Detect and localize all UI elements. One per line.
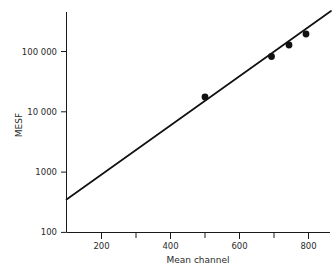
calibration-plot: 100 000 10 000 1000 100 200 400 600 800 … [0, 0, 336, 269]
fit-line [67, 11, 332, 200]
data-point [303, 31, 310, 38]
x-tick-label-200: 200 [93, 241, 109, 251]
data-point [286, 42, 293, 49]
y-tick-label-100: 100 [41, 227, 57, 237]
x-tick-label-400: 400 [162, 241, 178, 251]
chart-container: 100 000 10 000 1000 100 200 400 600 800 … [0, 0, 336, 269]
x-axis-title: Mean channel [167, 255, 230, 265]
y-tick-label-100000: 100 000 [22, 47, 57, 57]
x-tick-label-800: 800 [300, 241, 316, 251]
y-tick-label-10000: 10 000 [27, 107, 57, 117]
data-point [202, 94, 209, 101]
data-point [268, 53, 275, 60]
y-axis-title: MESF [14, 113, 24, 137]
x-tick-label-600: 600 [231, 241, 247, 251]
y-tick-label-1000: 1000 [35, 167, 57, 177]
